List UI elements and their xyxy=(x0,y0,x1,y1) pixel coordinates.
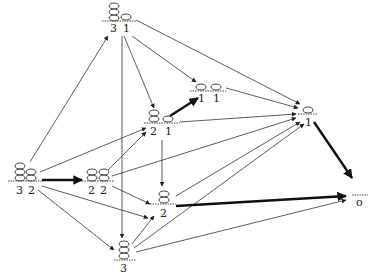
edge-31-11 xyxy=(132,36,196,82)
node-1 xyxy=(298,107,318,114)
node-3-label: 3 xyxy=(120,262,127,275)
node-2-1-label-a: 2 xyxy=(150,125,157,138)
node-1-1-label-b: 1 xyxy=(213,92,220,105)
node-3 xyxy=(114,241,136,260)
edge-1-0-bold xyxy=(314,122,352,178)
node-2 xyxy=(150,191,176,204)
edge-3-2 xyxy=(132,216,154,244)
node-1-1-label-a: 1 xyxy=(198,92,205,105)
edge-22-1 xyxy=(112,118,296,176)
edge-32-21 xyxy=(40,128,146,172)
edge-32-31 xyxy=(30,36,108,162)
graph-canvas: 3 1 3 2 2 2 2 1 1 1 1 2 xyxy=(0,0,372,275)
node-1-label: 1 xyxy=(305,116,312,129)
node-2-1-label-b: 1 xyxy=(165,125,172,138)
edge-21-11-bold xyxy=(170,98,198,116)
node-3-1-label-b: 1 xyxy=(123,22,130,35)
edge-22-21 xyxy=(108,132,146,170)
edge-32-3 xyxy=(38,190,114,250)
node-3-2-label-a: 3 xyxy=(16,184,23,197)
node-3-2 xyxy=(8,163,42,181)
edge-21-1 xyxy=(180,114,296,122)
edge-32-2 xyxy=(42,186,148,218)
node-3-2-label-b: 2 xyxy=(28,184,35,197)
edge-2-0-bold xyxy=(176,196,346,206)
edge-31-21 xyxy=(124,36,154,108)
edge-11-1 xyxy=(226,88,298,108)
edge-3-0 xyxy=(136,200,346,252)
node-1-1 xyxy=(190,84,226,91)
node-2-2 xyxy=(82,169,114,181)
edge-22-2 xyxy=(112,186,150,204)
node-2-2-label-b: 2 xyxy=(100,184,107,197)
edge-2-1 xyxy=(176,122,300,196)
edges xyxy=(30,20,346,252)
node-2-2-label-a: 2 xyxy=(88,184,95,197)
node-3-1-label-a: 3 xyxy=(110,22,117,35)
node-3-1 xyxy=(102,3,136,21)
node-empty-label: o xyxy=(356,196,363,209)
node-2-label: 2 xyxy=(160,207,167,220)
